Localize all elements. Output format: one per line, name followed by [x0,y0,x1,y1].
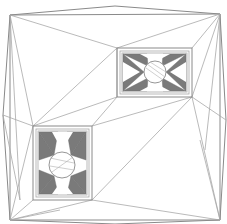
triangulated-mesh-diagram [0,0,227,224]
upper-hole [117,48,192,97]
background [0,0,227,224]
